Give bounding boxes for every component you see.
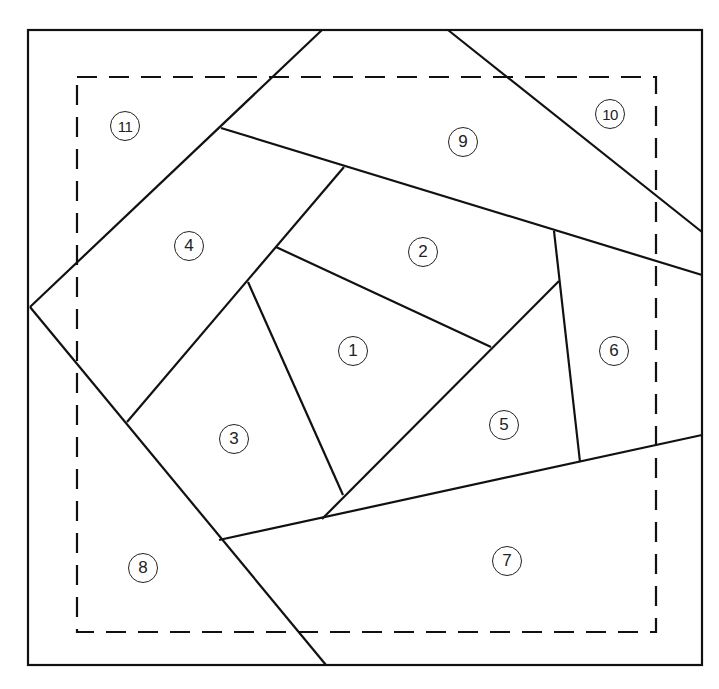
piece-label-7: 7 (492, 546, 522, 576)
piece-label-11: 11 (110, 111, 140, 141)
piece-label-6: 6 (599, 336, 629, 366)
piece-label-10: 10 (595, 99, 625, 129)
seam-line-H (248, 282, 343, 495)
seam-line-A (30, 30, 322, 307)
piece-label-1: 1 (338, 336, 368, 366)
piece-label-4: 4 (174, 231, 204, 261)
seam-line-I (322, 281, 559, 519)
piece-label-3: 3 (219, 424, 249, 454)
seam-line-J (554, 231, 580, 462)
seam-line-F (127, 167, 344, 422)
seam-line-G (276, 247, 491, 347)
seam-line-E (219, 435, 702, 540)
piece-label-8: 8 (128, 553, 158, 583)
piece-label-5: 5 (489, 410, 519, 440)
piece-label-9: 9 (448, 127, 478, 157)
seam-line-C (448, 30, 702, 232)
piece-label-2: 2 (408, 237, 438, 267)
